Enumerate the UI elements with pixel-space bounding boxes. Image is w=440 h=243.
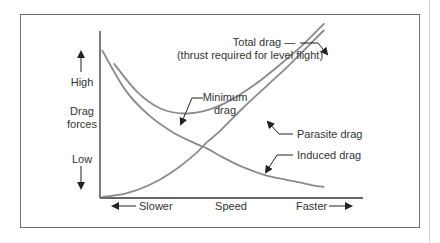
induced-drag-label: Induced drag xyxy=(297,149,361,161)
minimum-drag-label-2: drag xyxy=(214,104,236,116)
total-drag-label: Total drag — xyxy=(233,36,295,48)
parasite-drag-label: Parasite drag xyxy=(297,128,362,140)
induced-drag-leader xyxy=(266,155,293,172)
y-label-drag: Drag xyxy=(70,105,94,117)
induced-drag-curve xyxy=(102,50,324,187)
parasite-drag-leader xyxy=(268,122,293,134)
y-label-forces: forces xyxy=(67,118,97,130)
y-label-low: Low xyxy=(72,153,92,165)
x-label-speed: Speed xyxy=(215,200,247,212)
drag-chart: High Drag forces Low Slower Speed Faster… xyxy=(0,0,440,243)
minimum-drag-label-1: Minimum xyxy=(203,91,248,103)
total-drag-sublabel: (thrust required for level flight) xyxy=(177,49,323,61)
y-label-high: High xyxy=(71,76,94,88)
x-label-slower: Slower xyxy=(139,200,173,212)
minimum-drag-leader xyxy=(181,98,203,124)
x-label-faster: Faster xyxy=(296,200,328,212)
